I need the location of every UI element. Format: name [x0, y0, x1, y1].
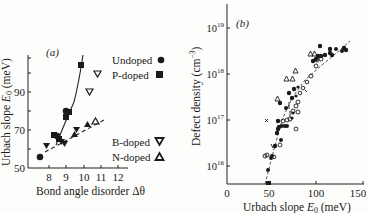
figure: 50 70 90 8 9 10 11 12 Bond angle disorde…	[0, 0, 368, 213]
b-fit-dashed	[265, 41, 350, 184]
legend-ndoped-label: N-doped	[112, 151, 151, 163]
b-open-triangles	[275, 51, 317, 101]
b-x-label: Urbach slope E0 (meV)	[243, 201, 351, 213]
legend-pdoped-icon	[156, 71, 163, 78]
a-xtick-8: 8	[46, 171, 52, 183]
a-open-markers	[86, 71, 101, 124]
legend-bdoped-icon	[156, 138, 164, 145]
marker-bdoped-open	[94, 71, 101, 77]
panel-b: 1019 1018 1017 1016 0 50 100 150 Urbach …	[188, 4, 367, 213]
b-cross-markers	[265, 90, 307, 148]
b-ytick-1e19: 1019	[207, 21, 225, 34]
legend-undoped-label: Undoped	[112, 54, 153, 66]
a-ytick-90: 90	[14, 86, 26, 98]
b-xtick-0: 0	[224, 187, 230, 199]
b-xtick-100: 100	[308, 187, 325, 199]
b-ytick-1e18: 1018	[207, 67, 225, 80]
b-ytick-1e16: 1016	[207, 159, 225, 172]
a-xtick-12: 12	[113, 171, 124, 183]
marker-pdoped	[66, 109, 72, 115]
a-ytick-70: 70	[14, 124, 26, 136]
a-ytick-50: 50	[14, 162, 26, 174]
a-x-label: Bond angle disorder Δθ	[36, 185, 146, 198]
marker-ndoped-filled	[84, 121, 91, 127]
legend-pdoped-label: P-doped	[112, 69, 149, 81]
a-xtick-11: 11	[96, 171, 107, 183]
a-legend: Undoped P-doped B-doped N-doped	[112, 54, 164, 163]
marker-pdoped	[78, 62, 84, 68]
a-markers	[37, 62, 91, 160]
a-xtick-10: 10	[79, 171, 91, 183]
a-fit-steep	[56, 55, 83, 145]
panel-b-label: (b)	[236, 17, 249, 30]
b-filled-markers	[266, 44, 348, 185]
marker-bdoped-filled	[43, 143, 50, 149]
legend-undoped-icon	[158, 57, 165, 64]
a-y-label: Urbach slope E0 (meV)	[0, 58, 14, 166]
b-xtick-150: 150	[350, 187, 367, 199]
legend-bdoped-label: B-doped	[112, 136, 150, 148]
legend-ndoped-icon	[156, 153, 164, 160]
panel-a: 50 70 90 8 9 10 11 12 Bond angle disorde…	[0, 46, 164, 198]
b-xtick-50: 50	[264, 187, 276, 199]
marker-undoped	[37, 154, 44, 161]
marker-ndoped-open	[92, 118, 99, 124]
marker-bdoped-open	[86, 89, 93, 95]
b-y-label: Defect density (cm−3)	[188, 47, 203, 146]
b-ytick-1e17: 1017	[207, 113, 225, 126]
panel-a-label: (a)	[46, 46, 59, 59]
a-xtick-9: 9	[63, 171, 69, 183]
